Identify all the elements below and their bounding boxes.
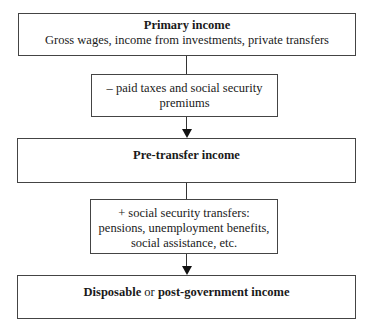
social-transfers-line-3: social assistance, etc. [91, 236, 277, 251]
or-label: or [141, 285, 158, 299]
arrow-down-icon [182, 129, 192, 138]
connector-line-2 [186, 183, 187, 199]
taxes-deduction-line-1: – paid taxes and social security [92, 81, 277, 96]
social-transfers-line-2: pensions, unemployment benefits, [91, 221, 277, 236]
taxes-deduction-line-2: premiums [92, 96, 277, 111]
arrow-line-2 [186, 254, 187, 266]
social-transfers-line-1: + social security transfers: [91, 206, 277, 221]
post-government-income-label: post-government income [158, 285, 290, 299]
disposable-label: Disposable [84, 285, 142, 299]
social-transfers-box: + social security transfers: pensions, u… [90, 199, 278, 254]
primary-income-subtitle: Gross wages, income from investments, pr… [19, 33, 355, 48]
pre-transfer-income-box: Pre-transfer income [17, 138, 356, 183]
arrow-down-icon [182, 266, 192, 275]
disposable-income-title: Disposable or post-government income [18, 285, 355, 300]
primary-income-box: Primary income Gross wages, income from … [18, 13, 356, 56]
arrow-line-1 [186, 117, 187, 129]
connector-line-1 [186, 56, 187, 74]
pre-transfer-income-title: Pre-transfer income [18, 148, 355, 163]
disposable-income-box: Disposable or post-government income [17, 275, 356, 319]
taxes-deduction-box: – paid taxes and social security premium… [91, 74, 278, 117]
primary-income-title: Primary income [19, 18, 355, 33]
